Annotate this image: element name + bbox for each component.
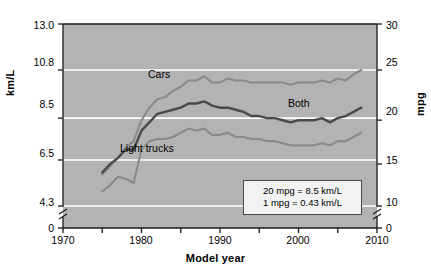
xtick-1990: 1990 <box>198 234 242 246</box>
series-label-light-trucks: Light trucks <box>120 142 174 154</box>
ytick-right-25: 25 <box>386 56 426 68</box>
xtick-2000: 2000 <box>276 234 320 246</box>
ytick-left-0: 0 <box>18 222 54 234</box>
annotation-line-1: 20 mpg = 8.5 km/L <box>246 185 359 197</box>
ytick-right-15: 15 <box>386 154 426 166</box>
x-axis-label: Model year <box>0 252 431 264</box>
ytick-left-13: 13.0 <box>18 19 54 31</box>
ytick-right-0: 0 <box>386 222 426 234</box>
xtick-1980: 1980 <box>119 234 163 246</box>
annotation-line-2: 1 mpg = 0.43 km/L <box>246 197 359 209</box>
ytick-left-6-5: 6.5 <box>18 147 54 159</box>
fuel-economy-line-chart: 13.0 10.8 8.5 6.5 4.3 0 30 25 20 15 10 0… <box>0 0 431 279</box>
xtick-2010: 2010 <box>355 234 399 246</box>
ytick-left-4-3: 4.3 <box>18 196 54 208</box>
xtick-1970: 1970 <box>41 234 85 246</box>
series-label-both: Both <box>288 97 310 109</box>
conversion-annotation-box: 20 mpg = 8.5 km/L 1 mpg = 0.43 km/L <box>243 180 362 215</box>
ytick-left-10-8: 10.8 <box>18 56 54 68</box>
ytick-right-30: 30 <box>386 19 426 31</box>
ytick-right-10: 10 <box>386 196 426 208</box>
y-axis-label-right: mpg <box>414 92 426 116</box>
y-axis-label-left: km/L <box>4 70 16 96</box>
series-label-cars: Cars <box>148 68 170 80</box>
ytick-left-8-5: 8.5 <box>18 98 54 110</box>
